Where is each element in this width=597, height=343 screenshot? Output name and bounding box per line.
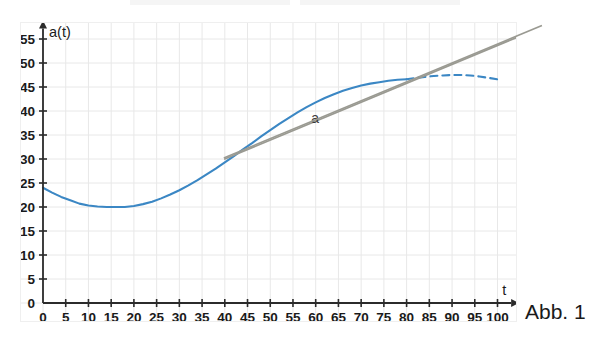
x-tick-label: 0 [39,310,47,322]
x-tick-label: 65 [331,310,347,322]
y-tick-label: 35 [21,128,35,143]
y-tick-label: 10 [21,248,35,263]
x-tick-label: 100 [486,310,509,322]
x-tick-label: 10 [81,310,96,322]
y-axis-title: a(t) [49,24,71,40]
x-tick-label: 20 [126,310,141,322]
y-axis-arrow [39,23,47,28]
x-tick-label: 95 [467,310,483,322]
cut-off-text-remnant-left [130,0,290,5]
y-tick-label: 45 [21,80,35,95]
x-tick-label: 60 [308,310,323,322]
y-tick-label: 50 [21,56,35,71]
data-series [43,27,517,207]
figure-container: 0510152025303540455055606570758085909510… [0,0,597,343]
figure-caption: Abb. 1 [525,300,586,324]
y-tick-label: 20 [21,200,35,215]
plot-area: 0510152025303540455055606570758085909510… [20,22,517,322]
x-tick-label: 70 [354,310,369,322]
series-path-2 [225,27,517,159]
x-tick-label: 45 [240,310,256,322]
x-tick-label: 50 [263,310,278,322]
x-axis-title: t [502,282,506,298]
x-tick-label: 40 [217,310,232,322]
x-tick-label: 80 [399,310,414,322]
x-tick-label: 5 [62,310,70,322]
x-tick-label: 75 [376,310,392,322]
y-tick-label: 15 [21,224,35,239]
x-axis-arrow [511,299,517,307]
y-tick-label: 5 [27,272,35,287]
y-tick-label: 25 [21,176,35,191]
x-tick-label: 15 [104,310,120,322]
y-tick-label: 40 [21,104,35,119]
y-tick-label: 0 [27,296,35,311]
y-tick-label: 55 [21,32,35,47]
cut-off-text-remnant-right [300,0,460,5]
x-tick-label: 25 [149,310,165,322]
x-tick-label: 55 [285,310,301,322]
x-tick-label: 30 [172,310,187,322]
coordinate-chart: 0510152025303540455055606570758085909510… [21,23,517,322]
x-tick-label: 85 [422,310,438,322]
y-tick-label: 30 [21,152,35,167]
x-tick-label: 90 [445,310,460,322]
x-tick-label: 35 [195,310,211,322]
annotation-label-0: a [311,110,319,126]
